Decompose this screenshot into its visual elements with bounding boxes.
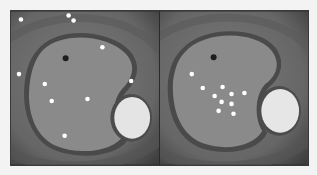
figure — [10, 10, 309, 166]
sample-point — [42, 82, 47, 87]
sample-point — [71, 18, 76, 23]
sample-point — [200, 86, 205, 91]
sample-point — [49, 99, 54, 104]
sample-point — [220, 85, 225, 90]
panel-left-plot — [11, 11, 159, 165]
bright-ellipse — [261, 89, 299, 133]
sample-point — [242, 91, 247, 96]
panel-left — [11, 11, 159, 165]
sample-point — [212, 94, 217, 99]
sample-point — [66, 13, 71, 18]
sample-point — [85, 97, 90, 102]
sample-point — [129, 79, 134, 84]
sample-point — [100, 45, 105, 50]
sample-point — [17, 72, 22, 77]
sample-point — [231, 112, 236, 117]
reference-point — [63, 55, 69, 61]
bright-ellipse — [114, 97, 150, 139]
sample-point — [19, 17, 24, 22]
sample-point — [229, 102, 234, 107]
sample-point — [219, 100, 224, 105]
panel-right — [159, 11, 308, 165]
sample-point — [62, 133, 67, 138]
reference-point — [211, 54, 217, 60]
sample-point — [190, 72, 195, 77]
sample-point — [216, 109, 221, 114]
sample-point — [229, 92, 234, 97]
panel-right-plot — [160, 11, 308, 165]
